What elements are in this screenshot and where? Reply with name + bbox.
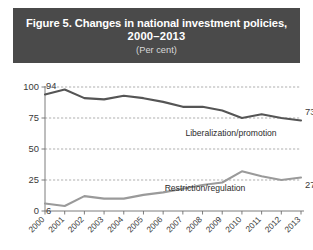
x-axis-tick-label: 2003 [85, 214, 105, 234]
line-chart: 0255075100 20002001200220032004200520062… [0, 63, 313, 250]
data-point-label: 94 [46, 80, 56, 91]
x-axis-tick-label: 2004 [105, 214, 125, 234]
series-label-liberalization: Liberalization/promotion [185, 128, 276, 138]
data-point-label: 73 [305, 106, 313, 117]
x-axis-tick-label: 2011 [243, 214, 263, 234]
x-axis-tick-label: 2001 [46, 214, 66, 234]
y-axis-tick-label: 25 [29, 174, 39, 185]
series-label-restriction: Restriction/regulation [165, 183, 246, 193]
x-axis-tick-labels: 2000200120022003200420052006200720082009… [26, 214, 302, 234]
x-axis-tick-label: 2008 [184, 214, 204, 234]
series-inline-labels: Liberalization/promotionRestriction/regu… [165, 128, 277, 192]
x-axis-tick-label: 2013 [282, 214, 302, 234]
chart-plot-area: 0255075100 20002001200220032004200520062… [0, 63, 313, 250]
figure-subtitle: (Per cent) [136, 44, 177, 56]
figure-title-line2: 2000–2013 [128, 30, 186, 44]
data-point-label: 6 [46, 205, 51, 216]
figure-title-banner: Figure 5. Changes in national investment… [13, 8, 300, 63]
x-axis-tick-label: 2009 [204, 214, 224, 234]
x-axis-tick-label: 2000 [26, 214, 46, 234]
x-axis-tick-label: 2006 [144, 214, 164, 234]
y-axis-tick-label: 75 [29, 112, 39, 123]
x-axis-ticks [45, 211, 301, 215]
x-axis-tick-label: 2007 [164, 214, 184, 234]
series-line-liberalization [45, 89, 301, 120]
figure-container: Figure 5. Changes in national investment… [0, 0, 313, 250]
x-axis-tick-label: 2012 [263, 214, 283, 234]
y-axis-tick-label: 50 [29, 143, 39, 154]
data-point-label: 27 [305, 179, 313, 190]
figure-title-line1: Figure 5. Changes in national investment… [26, 17, 287, 30]
x-axis-tick-label: 2002 [66, 214, 86, 234]
y-axis-tick-label: 100 [23, 81, 39, 92]
y-axis-tick-labels: 0255075100 [23, 81, 39, 216]
x-axis-tick-label: 2010 [223, 214, 243, 234]
x-axis-tick-label: 2005 [125, 214, 145, 234]
